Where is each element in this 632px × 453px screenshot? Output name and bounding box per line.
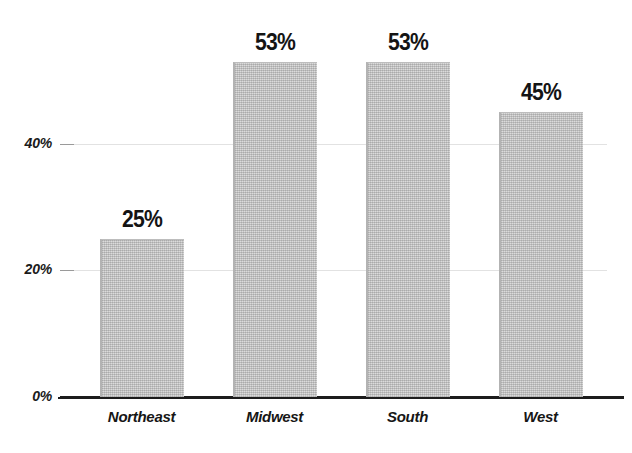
bar-chart-figure: 0%20%40%25%Northeast53%Midwest53%South45…: [0, 0, 632, 453]
x-axis-category-label-midwest: Midwest: [205, 408, 345, 425]
x-axis-category-label-south: South: [338, 408, 478, 425]
plot-area: 0%20%40%25%Northeast53%Midwest53%South45…: [0, 0, 632, 453]
y-axis-label-0: 0%: [0, 388, 52, 404]
x-axis-category-label-west: West: [471, 408, 611, 425]
bar-west: [499, 112, 583, 397]
bar-south: [366, 62, 450, 397]
bar-northeast: [100, 239, 184, 397]
y-axis-label-20: 20%: [0, 261, 52, 277]
y-tick-mark-20: [60, 270, 74, 271]
bar-value-label-south: 53%: [352, 29, 462, 56]
y-tick-mark-40: [60, 144, 74, 145]
y-axis-label-40: 40%: [0, 135, 52, 151]
bar-value-label-northeast: 25%: [86, 206, 196, 233]
bar-midwest: [233, 62, 317, 397]
x-axis-category-label-northeast: Northeast: [72, 408, 212, 425]
bar-value-label-west: 45%: [485, 79, 595, 106]
bar-value-label-midwest: 53%: [219, 29, 329, 56]
